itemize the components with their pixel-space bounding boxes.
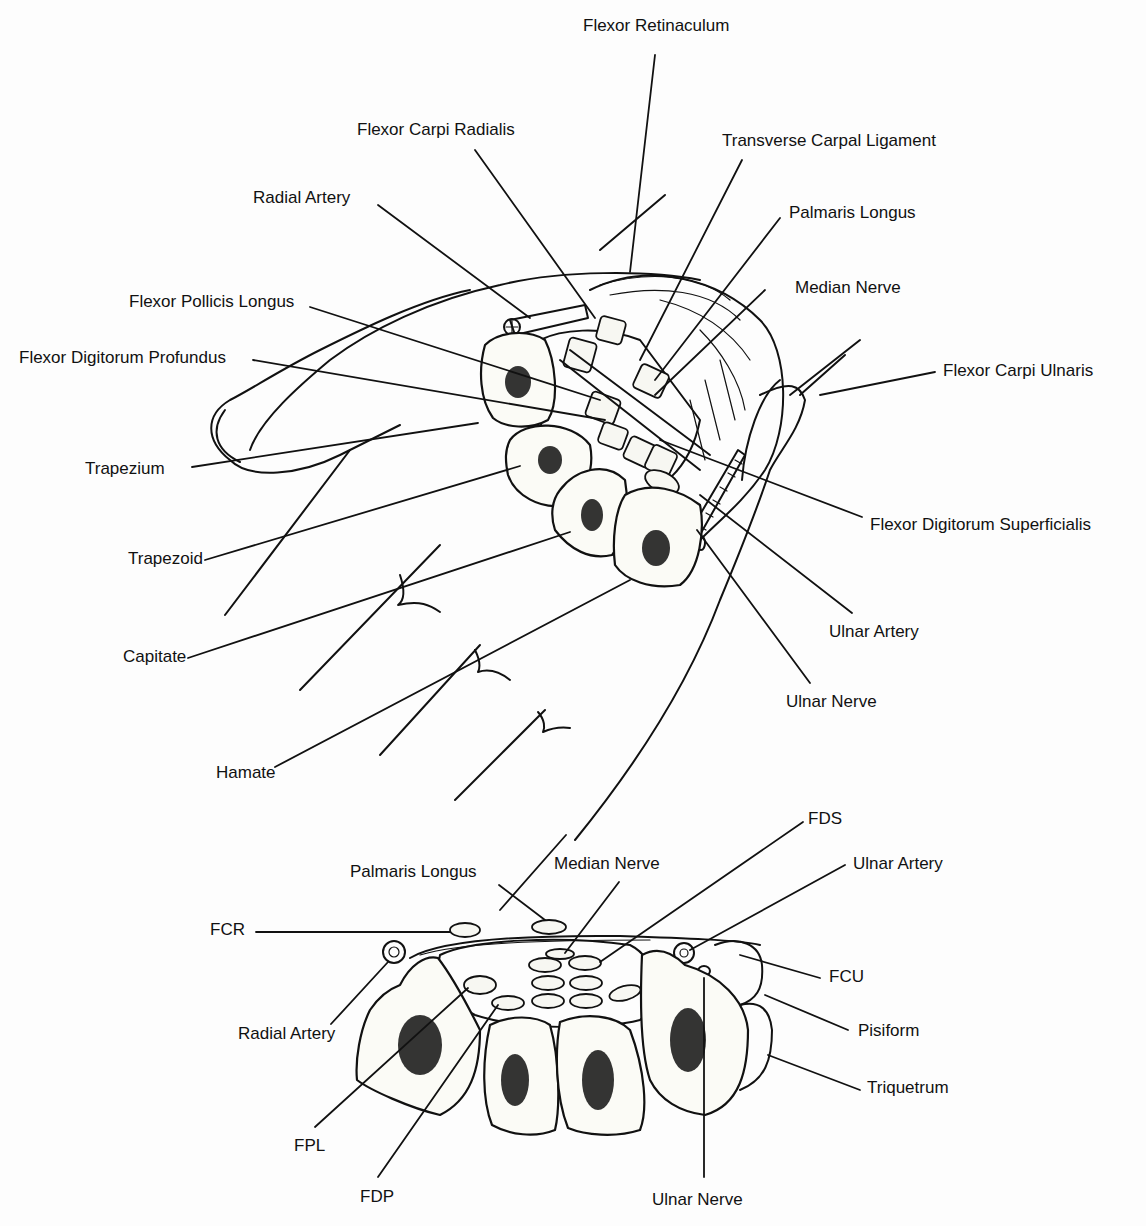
label-fdp: FDP	[360, 1187, 394, 1207]
label-ulnar-nerve-top: Ulnar Nerve	[786, 692, 877, 712]
label-radial-artery-section: Radial Artery	[238, 1024, 335, 1044]
label-median-nerve-section: Median Nerve	[554, 854, 660, 874]
carpal-tunnel-diagram: Flexor Retinaculum Flexor Carpi Radialis…	[0, 0, 1146, 1226]
label-ulnar-artery-top: Ulnar Artery	[829, 622, 919, 642]
label-fcr: FCR	[210, 920, 245, 940]
anatomy-illustration	[0, 0, 1146, 1226]
label-hamate: Hamate	[216, 763, 276, 783]
label-palmaris-longus: Palmaris Longus	[789, 203, 916, 223]
leader-lines-top	[188, 55, 935, 767]
label-ulnar-artery-section: Ulnar Artery	[853, 854, 943, 874]
label-radial-artery: Radial Artery	[253, 188, 350, 208]
label-median-nerve: Median Nerve	[795, 278, 901, 298]
label-flexor-carpi-radialis: Flexor Carpi Radialis	[357, 120, 515, 140]
label-transverse-carpal-ligament: Transverse Carpal Ligament	[722, 131, 936, 151]
label-capitate: Capitate	[123, 647, 186, 667]
label-flexor-digitorum-profundus: Flexor Digitorum Profundus	[19, 348, 226, 368]
label-flexor-retinaculum: Flexor Retinaculum	[583, 16, 729, 36]
label-ulnar-nerve-section: Ulnar Nerve	[652, 1190, 743, 1210]
label-palmaris-longus-section: Palmaris Longus	[350, 862, 477, 882]
label-trapezoid: Trapezoid	[128, 549, 203, 569]
label-trapezium: Trapezium	[85, 459, 165, 479]
label-fds: FDS	[808, 809, 842, 829]
label-fcu: FCU	[829, 967, 864, 987]
label-fpl: FPL	[294, 1136, 325, 1156]
label-flexor-pollicis-longus: Flexor Pollicis Longus	[129, 292, 294, 312]
label-flexor-carpi-ulnaris: Flexor Carpi Ulnaris	[943, 361, 1093, 381]
label-triquetrum: Triquetrum	[867, 1078, 949, 1098]
label-flexor-digitorum-superficialis: Flexor Digitorum Superficialis	[870, 515, 1091, 535]
label-pisiform: Pisiform	[858, 1021, 919, 1041]
